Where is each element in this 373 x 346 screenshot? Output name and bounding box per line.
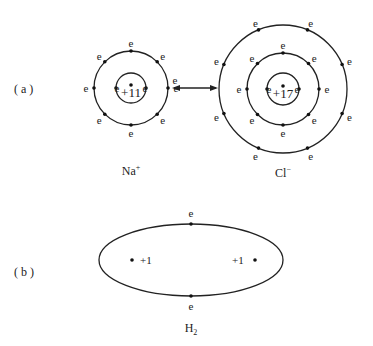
electron-label: e: [253, 150, 258, 162]
electron-dot: [256, 62, 260, 66]
electron-dot: [307, 62, 311, 66]
electron-dot: [256, 113, 260, 117]
electron-label: e: [115, 82, 120, 94]
sodium-ion-diagram: +11eeeeeeeeeee: [84, 37, 179, 139]
electron-label: e: [281, 39, 286, 51]
electron-label: e: [347, 55, 352, 67]
electron-label: e: [143, 82, 148, 94]
electron-label: e: [312, 52, 317, 64]
electron-dot: [166, 86, 170, 90]
electron-dot: [189, 222, 193, 226]
electron-dot: [222, 112, 226, 116]
electron-label: e: [84, 82, 89, 94]
nucleus-charge-right: +1: [232, 254, 244, 266]
electron-label: e: [160, 50, 165, 62]
electron-dot: [340, 63, 344, 67]
electron-label: e: [281, 127, 286, 139]
electron-dot: [189, 294, 193, 298]
electron-label: e: [308, 17, 313, 29]
electron-dot: [307, 113, 311, 117]
electron-label-top: e: [189, 207, 194, 219]
electron-label: e: [325, 83, 330, 95]
electron-label: e: [129, 37, 134, 49]
panel-b-label: ( b ): [14, 265, 34, 279]
electron-dot: [317, 87, 321, 91]
electron-label: e: [214, 111, 219, 123]
electron-label: e: [253, 17, 258, 29]
electron-label: e: [267, 83, 272, 95]
electron-label-bottom: e: [189, 300, 194, 312]
electron-dot: [340, 112, 344, 116]
electron-label: e: [160, 114, 165, 126]
hydrogen-nucleus-right: [253, 258, 257, 262]
electron-dot: [155, 112, 159, 116]
electron-label: e: [214, 55, 219, 67]
electron-label: e: [97, 50, 102, 62]
nucleus-charge: +17: [273, 86, 294, 101]
electron-label: e: [308, 150, 313, 162]
electron-label: e: [249, 114, 254, 126]
chlorine-ion-diagram: +17eeeeeeeeeeeeeeeeee: [214, 17, 352, 162]
electron-label: e: [97, 114, 102, 126]
electron-label: e: [237, 83, 242, 95]
electron-dot: [103, 112, 107, 116]
ionic-covalent-bonding-diagram: ( a ) +11eeeeeeeeeee +17eeeeeeeeeeeeeeee…: [0, 0, 373, 346]
electron-dot: [103, 60, 107, 64]
electron-label: e: [249, 52, 254, 64]
electron-label: e: [295, 83, 300, 95]
nucleus-charge: +11: [121, 85, 141, 100]
electron-label: e: [129, 127, 134, 139]
nucleus-charge-left: +1: [140, 254, 152, 266]
electron-dot: [245, 87, 249, 91]
electron-label: e: [312, 114, 317, 126]
hydrogen-nucleus-left: [130, 258, 134, 262]
electron-dot: [222, 63, 226, 67]
electron-dot: [129, 49, 133, 53]
double-headed-arrow-icon: [172, 85, 218, 91]
electron-dot: [281, 51, 285, 55]
transferred-electron-label: e: [173, 74, 178, 86]
electron-dot: [257, 28, 261, 32]
hydrogen-molecule-label: H2: [185, 321, 198, 337]
chloride-ion-label: Cl−: [275, 165, 291, 180]
electron-label: e: [347, 111, 352, 123]
panel-a-label: ( a ): [14, 82, 33, 96]
electron-dot: [92, 86, 96, 90]
sodium-ion-label: Na+: [122, 163, 141, 178]
electron-dot: [306, 28, 310, 32]
electron-dot: [155, 60, 159, 64]
